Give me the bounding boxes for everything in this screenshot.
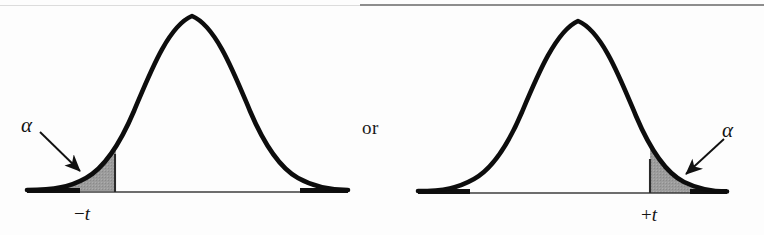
- left-critical-value-label: −t: [74, 203, 90, 225]
- right-tail-shaded-region: [578, 21, 727, 193]
- left-alpha-label: α: [21, 113, 32, 138]
- curves-canvas: [0, 0, 764, 235]
- left-normal-curve: [27, 16, 348, 190]
- right-alpha-label: α: [722, 118, 733, 143]
- right-alpha-arrow: [686, 139, 724, 174]
- right-critical-value-label: +t: [641, 204, 657, 226]
- left-alpha-arrow: [40, 132, 80, 171]
- connector-or-label: or: [362, 117, 379, 139]
- right-normal-curve: [418, 21, 727, 192]
- left-distribution-group: [27, 16, 348, 192]
- right-axis-label-text: +t: [641, 204, 657, 225]
- right-distribution-group: [418, 21, 727, 193]
- left-axis-label-text: −t: [74, 203, 90, 224]
- statistics-figure: α −t or α +t: [0, 0, 764, 235]
